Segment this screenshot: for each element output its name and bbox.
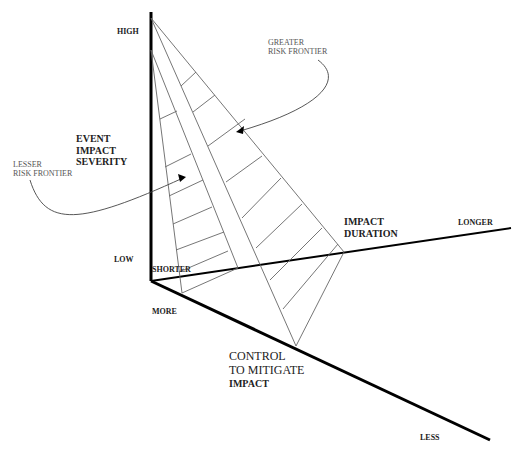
greater-risk-frontier-shape [151,18,344,346]
axes [151,12,511,440]
lesser-arrowhead-icon [178,174,186,182]
severity-axis-title: EVENT IMPACT SEVERITY [76,133,127,168]
greater-frontier-arrow [240,60,328,131]
severity-low-label: LOW [114,255,134,264]
control-more-label: MORE [152,307,177,316]
duration-axis-title: IMPACT DURATION [344,216,398,239]
lesser-frontier-label: LESSER RISK FRONTIER [13,160,72,178]
greater-arrowhead-icon [236,126,244,134]
control-axis-title-line1: CONTROL [229,350,286,364]
duration-shorter-label: SHORTER [152,265,191,274]
severity-high-label: HIGH [117,27,139,36]
lesser-frontier-arrow [30,178,183,215]
control-axis-title-line2: TO MITIGATE [229,364,304,378]
control-axis [151,281,490,440]
duration-longer-label: LONGER [458,218,493,227]
lesser-risk-frontier-shape [151,50,238,293]
control-axis-title-line3: IMPACT [229,378,269,390]
control-less-label: LESS [420,433,440,442]
greater-frontier-label: GREATER RISK FRONTIER [268,38,327,56]
risk-frontier-diagram: HIGH GREATER RISK FRONTIER EVENT IMPACT … [0,0,520,452]
